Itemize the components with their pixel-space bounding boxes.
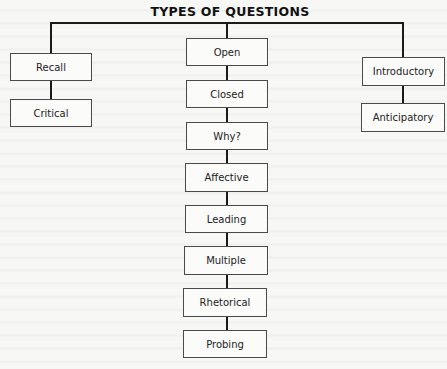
node-label: Affective bbox=[204, 172, 248, 183]
node-label: Introductory bbox=[373, 66, 434, 77]
right-branch-line-2 bbox=[402, 85, 404, 104]
node-why: Why? bbox=[186, 122, 268, 150]
node-recall: Recall bbox=[10, 53, 92, 81]
node-leading: Leading bbox=[185, 205, 268, 233]
node-label: Recall bbox=[36, 62, 66, 73]
node-multiple: Multiple bbox=[184, 246, 268, 275]
node-label: Open bbox=[214, 47, 241, 58]
node-label: Multiple bbox=[206, 255, 246, 266]
diagram-title: TYPES OF QUESTIONS bbox=[0, 4, 447, 19]
node-closed: Closed bbox=[186, 80, 268, 108]
node-rhetorical: Rhetorical bbox=[183, 288, 267, 317]
node-label: Probing bbox=[206, 339, 244, 350]
left-branch-line-2 bbox=[50, 80, 52, 100]
node-label: Rhetorical bbox=[200, 297, 251, 308]
node-open: Open bbox=[186, 38, 268, 66]
node-probing: Probing bbox=[183, 330, 267, 358]
node-affective: Affective bbox=[185, 163, 268, 192]
node-label: Why? bbox=[213, 131, 240, 142]
node-label: Leading bbox=[207, 214, 247, 225]
node-critical: Critical bbox=[10, 99, 92, 127]
node-introductory: Introductory bbox=[362, 57, 445, 86]
right-branch-line bbox=[402, 22, 404, 58]
node-label: Closed bbox=[210, 89, 244, 100]
node-label: Anticipatory bbox=[373, 112, 434, 123]
node-label: Critical bbox=[34, 108, 69, 119]
node-anticipatory: Anticipatory bbox=[361, 103, 445, 132]
left-branch-line bbox=[50, 22, 52, 54]
